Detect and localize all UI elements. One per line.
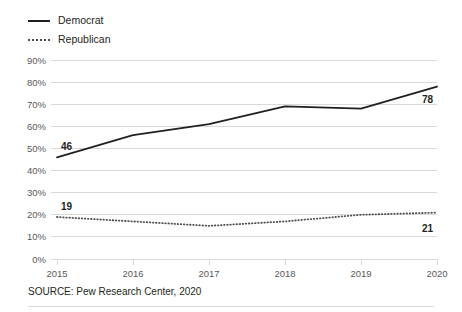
point-label-republican-last: 21 — [422, 223, 434, 234]
y-tick-label: 70% — [27, 99, 47, 110]
y-tick-label: 40% — [27, 165, 47, 176]
gridlines — [51, 60, 437, 259]
source-note: SOURCE: Pew Research Center, 2020 — [28, 286, 201, 297]
y-tick-label: 30% — [27, 187, 47, 198]
x-tick-label: 2020 — [426, 268, 447, 279]
x-tick-label: 2015 — [46, 268, 67, 279]
y-axis-tick-labels: 0%10%20%30%40%50%60%70%80%90% — [27, 55, 47, 265]
y-tick-label: 80% — [27, 77, 47, 88]
point-label-democrat-last: 78 — [422, 94, 434, 105]
point-label-republican-first: 19 — [61, 201, 73, 212]
x-tick-label: 2016 — [122, 268, 143, 279]
y-tick-label: 60% — [27, 121, 47, 132]
data-series-lines — [57, 87, 437, 226]
x-axis-tick-marks — [57, 259, 437, 265]
line-chart-svg: 0%10%20%30%40%50%60%70%80%90% 2015201620… — [0, 0, 462, 312]
point-label-democrat-first: 46 — [61, 141, 73, 152]
x-tick-label: 2017 — [198, 268, 219, 279]
x-axis-tick-labels: 201520162017201820192020 — [46, 268, 447, 279]
y-tick-label: 0% — [32, 254, 46, 265]
chart-figure: Democrat Republican 0%10%20%30%40%50%60%… — [0, 0, 462, 312]
x-tick-label: 2018 — [274, 268, 295, 279]
y-tick-label: 20% — [27, 209, 47, 220]
x-tick-label: 2019 — [350, 268, 371, 279]
plot-area: 0%10%20%30%40%50%60%70%80%90% 2015201620… — [0, 0, 462, 312]
footer-divider — [28, 306, 434, 307]
series-line-democrat — [57, 87, 437, 158]
y-tick-label: 90% — [27, 55, 47, 66]
y-tick-label: 10% — [27, 231, 47, 242]
y-tick-label: 50% — [27, 143, 47, 154]
